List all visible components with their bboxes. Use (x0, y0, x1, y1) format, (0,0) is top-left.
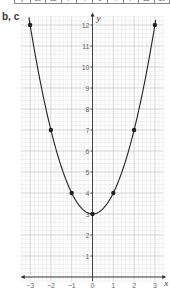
x-axis-label: x (163, 278, 168, 288)
y-tick-label: 1 (86, 253, 90, 260)
x-tick-label: −3 (26, 282, 34, 289)
data-point (111, 191, 115, 195)
y-tick-label: 11 (82, 43, 89, 50)
y-tick-label: 10 (82, 64, 90, 71)
y-tick-label: 8 (86, 106, 90, 113)
y-tick-label: 6 (86, 148, 90, 155)
data-point (28, 23, 32, 27)
y-axis-arrow-icon (91, 13, 95, 17)
x-tick-label: 3 (153, 282, 157, 289)
data-point (70, 191, 74, 195)
y-tick-label: 4 (86, 190, 90, 197)
y-tick-label: 7 (86, 127, 90, 134)
data-point (132, 128, 136, 132)
y-tick-label: 9 (86, 85, 90, 92)
data-point (153, 23, 157, 27)
x-tick-label: 1 (111, 282, 115, 289)
y-tick-label: 5 (86, 169, 90, 176)
x-axis-arrow-left-icon (21, 275, 25, 279)
y-axis-label: y (96, 13, 101, 23)
y-tick-label: 12 (82, 22, 90, 29)
parabola-chart: xy−3−2−10123123456789101112 (0, 0, 170, 296)
x-tick-label: −2 (47, 282, 55, 289)
x-tick-label: 0 (91, 282, 95, 289)
y-tick-label: 2 (86, 232, 90, 239)
data-point (90, 212, 94, 216)
data-point (49, 128, 53, 132)
x-tick-label: 2 (132, 282, 136, 289)
x-tick-label: −1 (68, 282, 76, 289)
